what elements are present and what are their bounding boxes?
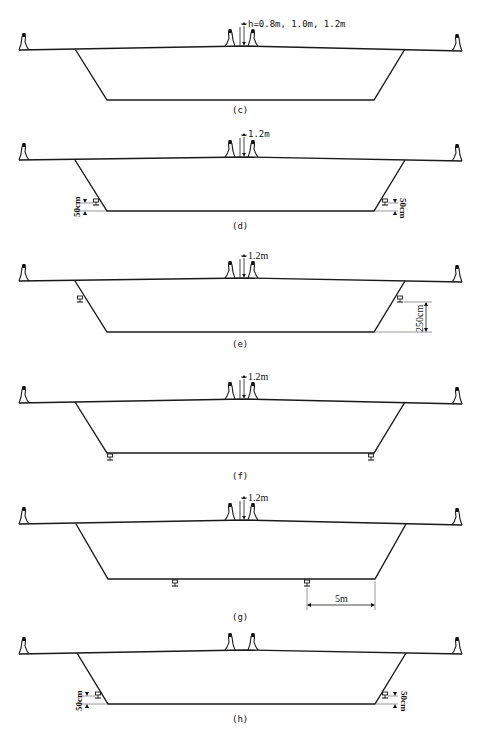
dim-bottom-label: 5m xyxy=(335,593,348,604)
dim-right-label: 250cm xyxy=(414,305,425,332)
barrier-right-icon xyxy=(452,637,462,654)
arrow-icon xyxy=(242,153,246,156)
bearing-right-icon xyxy=(382,199,388,205)
bearing-right-icon xyxy=(368,454,374,460)
bearing-left-icon xyxy=(172,580,178,586)
barrier-right-icon xyxy=(452,144,462,161)
median-barrier-right-icon xyxy=(248,633,258,650)
panel-f: 1.2m (f) xyxy=(19,371,462,481)
median-barrier-right-icon xyxy=(248,140,258,157)
median-barrier-right-icon xyxy=(248,382,258,399)
arrow-icon xyxy=(393,211,397,215)
median-barrier-left-icon xyxy=(225,382,235,399)
panel-h: 50cm 50cm (h) xyxy=(19,633,462,724)
barrier-left-icon xyxy=(19,33,29,50)
arrow-icon xyxy=(242,22,246,25)
barrier-right-icon xyxy=(452,387,462,404)
deck-slab xyxy=(19,650,462,654)
arrow-icon xyxy=(242,496,246,499)
bearing-right-icon xyxy=(304,580,310,586)
arrow-icon xyxy=(85,692,89,696)
barrier-right-icon xyxy=(452,34,462,51)
bearing-left-icon xyxy=(95,692,101,698)
arrow-icon xyxy=(242,516,246,519)
barrier-left-icon xyxy=(19,637,29,654)
panel-label: (h) xyxy=(232,714,248,724)
arrow-icon xyxy=(242,42,246,45)
median-barrier-right-icon xyxy=(248,29,258,46)
height-note: 1.2m xyxy=(248,492,269,503)
box-webs-and-bottom-slab xyxy=(75,281,405,332)
deck-slab xyxy=(19,278,462,282)
barrier-left-icon xyxy=(19,264,29,281)
barrier-right-icon xyxy=(452,265,462,282)
median-barrier-left-icon xyxy=(225,503,235,520)
deck-slab xyxy=(19,399,462,404)
panel-label: (g) xyxy=(232,612,248,622)
box-webs-and-bottom-slab xyxy=(75,160,405,211)
arrow-icon xyxy=(85,704,89,708)
arrow-icon xyxy=(242,133,246,136)
arrow-icon xyxy=(242,395,246,398)
deck-slab xyxy=(19,520,462,525)
panel-label: (f) xyxy=(232,471,248,481)
deck-slab xyxy=(19,46,462,51)
dim-left-label: 50cm xyxy=(72,196,82,217)
arrow-icon xyxy=(242,274,246,277)
panel-g: 1.2m 5m (g) xyxy=(19,492,462,622)
barrier-left-icon xyxy=(19,386,29,403)
panel-label: (c) xyxy=(232,105,248,115)
arrow-icon xyxy=(242,375,246,378)
bearing-left-icon xyxy=(107,454,113,460)
median-barrier-right-icon xyxy=(248,503,258,520)
arrow-icon xyxy=(393,199,397,203)
arrow-icon xyxy=(371,603,375,607)
arrow-icon xyxy=(393,704,397,708)
height-note: h=0.8m, 1.0m, 1.2m xyxy=(248,19,346,29)
barrier-left-icon xyxy=(19,507,29,524)
median-barrier-left-icon xyxy=(225,261,235,278)
dim-right-label: 50cm xyxy=(399,691,409,712)
panel-c: h=0.8m, 1.0m, 1.2m (c) xyxy=(19,19,462,115)
arrow-icon xyxy=(83,199,87,203)
arrow-icon xyxy=(307,603,311,607)
dim-right-label: 50cm xyxy=(398,198,408,219)
arrow-icon xyxy=(83,211,87,215)
box-webs-and-bottom-slab xyxy=(77,653,406,704)
median-barrier-left-icon xyxy=(225,29,235,46)
bearing-left-icon xyxy=(77,296,83,302)
dim-left-label: 50cm xyxy=(74,690,84,711)
panel-d: 1.2m 50cm 50cm (d) xyxy=(19,129,462,231)
bearing-right-icon xyxy=(397,296,403,302)
median-barrier-left-icon xyxy=(225,633,235,650)
box-girder-cross-sections-figure: h=0.8m, 1.0m, 1.2m (c) 1.2m 50cm 50cm (d… xyxy=(0,0,479,737)
bearing-left-icon xyxy=(93,199,99,205)
arrow-icon xyxy=(242,254,246,257)
barrier-left-icon xyxy=(19,143,29,160)
median-barrier-left-icon xyxy=(225,140,235,157)
arrow-icon xyxy=(393,692,397,696)
barrier-right-icon xyxy=(452,508,462,525)
deck-slab xyxy=(19,157,462,161)
height-note: 1.2m xyxy=(248,250,269,261)
box-webs-and-bottom-slab xyxy=(76,524,406,579)
height-note: 1.2m xyxy=(248,371,269,382)
bearing-right-icon xyxy=(382,692,388,698)
panel-label: (d) xyxy=(232,221,248,231)
height-note: 1.2m xyxy=(248,129,270,139)
box-webs-and-bottom-slab xyxy=(75,49,405,100)
box-webs-and-bottom-slab xyxy=(75,402,405,453)
median-barrier-right-icon xyxy=(248,261,258,278)
panel-label: (e) xyxy=(232,339,248,349)
panel-e: 1.2m 250cm (e) xyxy=(19,250,462,349)
